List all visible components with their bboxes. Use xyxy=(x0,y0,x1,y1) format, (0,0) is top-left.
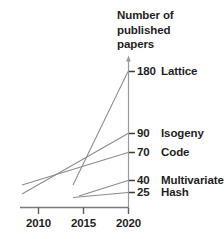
y-value-isogeny: 90 xyxy=(137,127,161,139)
y-label-isogeny: 90Isogeny xyxy=(137,127,204,139)
series-name-lattice: Lattice xyxy=(161,65,197,77)
x-label-2010: 2010 xyxy=(18,217,59,229)
x-label-2020: 2020 xyxy=(108,217,149,229)
y-label-hash: 25Hash xyxy=(137,186,189,198)
y-value-lattice: 180 xyxy=(137,65,161,77)
y-value-hash: 25 xyxy=(137,186,161,198)
y-label-code: 70Code xyxy=(137,146,189,158)
y-value-code: 70 xyxy=(137,146,161,158)
series-name-code: Code xyxy=(161,146,189,158)
series-name-isogeny: Isogeny xyxy=(161,127,204,139)
series-name-multivariate: Multivariate xyxy=(161,174,224,186)
series-name-hash: Hash xyxy=(161,186,189,198)
y-label-lattice: 180Lattice xyxy=(137,65,197,77)
plot-area xyxy=(0,0,224,239)
y-axis-arrow-icon xyxy=(126,56,131,62)
y-value-multivariate: 40 xyxy=(137,174,161,186)
x-label-2015: 2015 xyxy=(63,217,104,229)
series-line-lattice xyxy=(73,72,128,186)
y-label-multivariate: 40Multivariate xyxy=(137,174,224,186)
chart-container: Number of published papers 180Lattice 90… xyxy=(0,0,224,239)
series-line-isogeny xyxy=(22,134,128,195)
